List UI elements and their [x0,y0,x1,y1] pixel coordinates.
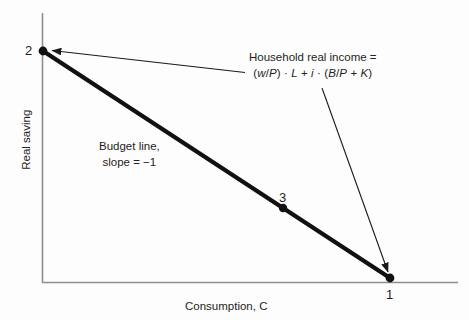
x-axis-label: Consumption, C [185,299,267,315]
data-point-label-1: 1 [386,286,393,304]
arrow-to-point-1 [322,88,388,272]
data-point-label-2: 2 [25,42,32,60]
household-real-income-formula: (w/P) · L + i · (B/P + K) [249,66,377,82]
chart-canvas [0,0,469,320]
budget-line [43,51,390,278]
formula-plus-2: + [350,67,357,79]
formula-var-B: B [328,67,336,79]
arrow-to-point-2 [52,51,245,73]
formula-paren-close-2: ) [368,67,372,79]
budget-line-annotation-line2: slope = −1 [99,155,160,171]
formula-var-P-1: P [269,67,277,79]
household-real-income-line1: Household real income = [249,50,377,66]
formula-dot-1: · [284,67,288,79]
formula-paren-close-1: ) [277,67,281,79]
data-point-2 [39,47,48,56]
data-point-1 [386,274,395,283]
budget-line-annotation-line1: Budget line, [99,139,160,155]
formula-dot-2: · [317,67,321,79]
formula-var-P-2: P [339,67,347,79]
data-point-label-3: 3 [279,189,286,207]
formula-var-i: i [311,67,314,79]
formula-plus-1: + [301,67,308,79]
budget-line-figure: 2 3 1 Budget line, slope = −1 Household … [0,0,469,320]
y-axis-label: Real saving [19,95,35,185]
budget-line-annotation: Budget line, slope = −1 [99,139,160,170]
formula-var-w: w [257,67,265,79]
formula-var-L: L [291,67,298,79]
household-real-income-annotation: Household real income = (w/P) · L + i · … [249,50,377,81]
